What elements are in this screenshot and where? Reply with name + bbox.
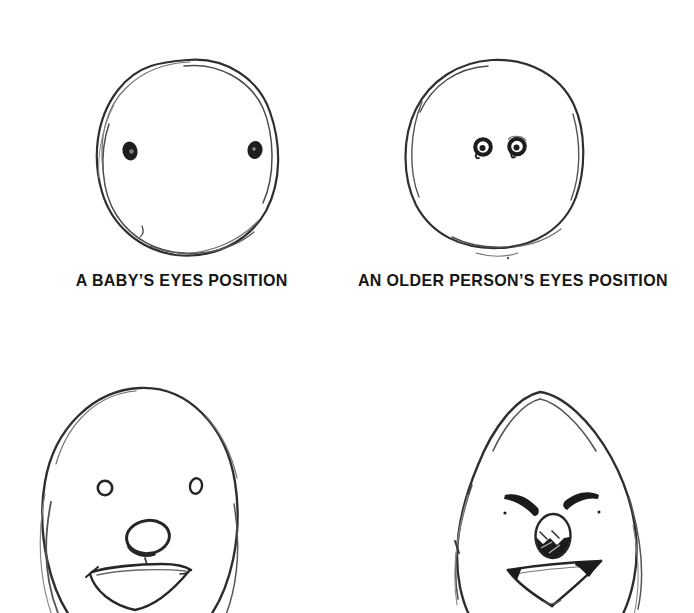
baby-eyes bbox=[121, 140, 264, 162]
aged-face-mouth bbox=[508, 561, 601, 606]
aged-full-face-sketch bbox=[443, 385, 653, 613]
youthful-full-face-sketch bbox=[28, 382, 253, 613]
older-person-eyes bbox=[475, 136, 526, 158]
aged-face-figure bbox=[443, 385, 653, 613]
caption-baby-eyes-text: A BABY’S EYES POSITION bbox=[76, 268, 288, 294]
illustration-page: A BABY’S EYES POSITION AN OLDER PERSON’S… bbox=[0, 0, 694, 613]
aged-face-eyes bbox=[503, 492, 600, 516]
youthful-face-features bbox=[86, 477, 203, 610]
older-person-face-sketch bbox=[396, 50, 592, 262]
caption-older-eyes: AN OLDER PERSON’S EYES POSITION bbox=[339, 268, 686, 294]
aged-face-nose bbox=[535, 513, 572, 558]
youthful-face-figure bbox=[28, 382, 253, 613]
baby-face-sketch bbox=[88, 50, 288, 262]
caption-baby-eyes: A BABY’S EYES POSITION bbox=[8, 268, 355, 294]
older-eyes-figure bbox=[396, 50, 592, 262]
baby-eyes-figure bbox=[88, 50, 288, 262]
caption-older-eyes-text: AN OLDER PERSON’S EYES POSITION bbox=[357, 268, 667, 294]
